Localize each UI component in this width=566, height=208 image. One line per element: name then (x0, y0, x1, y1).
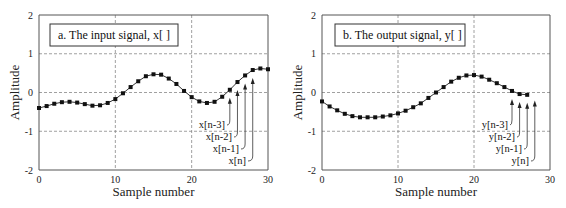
chart-title: b. The output signal, y[ ] (343, 28, 462, 42)
data-point (136, 79, 140, 83)
data-point (68, 100, 72, 104)
data-point (98, 103, 102, 107)
arrow-head (533, 101, 537, 107)
data-point (434, 91, 438, 95)
data-point (235, 80, 239, 84)
arrow-head (228, 98, 232, 104)
arrow-head (243, 83, 247, 89)
data-point (518, 92, 522, 96)
annotation-pointer (531, 106, 535, 162)
data-point (449, 80, 453, 84)
data-point (343, 112, 347, 116)
data-point (228, 88, 232, 92)
arrow-head (235, 90, 239, 96)
x-axis-label: Sample number (395, 184, 478, 199)
data-point (213, 100, 217, 104)
y-tick-label: 0 (311, 87, 316, 98)
data-point (220, 95, 224, 99)
arrow-head (510, 99, 514, 105)
data-point (106, 101, 110, 105)
figure: 210-1-20102030Sample numberAmplitudea. T… (0, 0, 566, 208)
y-tick-label: -1 (308, 126, 316, 137)
arrow-head (525, 103, 529, 109)
data-point (113, 97, 117, 101)
data-point (495, 81, 499, 85)
data-point (419, 101, 423, 105)
y-tick-label: -1 (25, 126, 33, 137)
annotation-label: x[n-2] (206, 131, 232, 142)
data-point (502, 85, 506, 89)
annotation-label: y[n] (512, 155, 530, 166)
y-tick-label: -2 (308, 165, 316, 176)
data-point (411, 105, 415, 109)
data-point (258, 66, 262, 70)
annotation-label: x[n-1] (213, 143, 239, 154)
data-point (525, 93, 529, 97)
chart-title: a. The input signal, x[ ] (58, 28, 170, 42)
data-point (510, 89, 514, 93)
annotation-pointer (524, 108, 527, 149)
y-tick-label: 1 (311, 48, 316, 59)
data-point (472, 73, 476, 77)
data-point (121, 91, 125, 95)
y-tick-label: -2 (25, 165, 33, 176)
data-point (404, 109, 408, 113)
data-point (83, 102, 87, 106)
chart-left: 210-1-20102030Sample numberAmplitudea. T… (7, 10, 273, 200)
data-point (358, 115, 362, 119)
x-axis-label: Sample number (113, 184, 196, 199)
data-point (144, 74, 148, 78)
data-point (335, 108, 339, 112)
data-point (52, 102, 56, 106)
data-point (426, 96, 430, 100)
annotation-label: y[n-1] (496, 143, 522, 154)
x-tick-label: 0 (37, 174, 42, 185)
chart-right: 210-1-20102030Sample numberAmplitudeb. T… (290, 10, 555, 200)
data-point (381, 115, 385, 119)
annotation-label: x[n] (229, 155, 247, 166)
data-point (480, 75, 484, 79)
data-point (388, 113, 392, 117)
data-point (487, 78, 491, 82)
data-point (159, 73, 163, 77)
y-axis-label: Amplitude (290, 64, 305, 120)
data-point (328, 104, 332, 108)
data-point (45, 104, 49, 108)
annotation-label: y[n-3] (482, 119, 508, 130)
data-point (60, 100, 64, 104)
data-point (129, 85, 133, 89)
data-point (205, 101, 209, 105)
arrow-head (518, 102, 522, 108)
data-point (442, 85, 446, 89)
data-point (197, 99, 201, 103)
annotation-pointer (517, 107, 520, 137)
y-axis-label: Amplitude (7, 64, 22, 120)
annotation-pointer (234, 95, 237, 137)
annotation-pointer (227, 103, 230, 125)
annotation-pointer (241, 88, 245, 149)
annotation-pointer (248, 83, 253, 161)
data-point (174, 82, 178, 86)
data-point (190, 95, 194, 99)
data-point (251, 68, 255, 72)
data-point (396, 111, 400, 115)
data-point (350, 114, 354, 118)
y-tick-label: 2 (28, 10, 33, 21)
data-point (366, 115, 370, 119)
data-point (90, 104, 94, 108)
x-tick-label: 30 (263, 174, 273, 185)
y-tick-label: 2 (311, 10, 316, 21)
arrow-head (251, 78, 255, 84)
data-point (182, 89, 186, 93)
data-point (457, 76, 461, 80)
data-point (373, 115, 377, 119)
x-tick-label: 30 (545, 174, 555, 185)
annotation-label: x[n-3] (199, 119, 225, 130)
annotation-label: y[n-2] (489, 131, 515, 142)
data-point (167, 77, 171, 81)
data-point (75, 101, 79, 105)
data-point (152, 72, 156, 76)
data-point (266, 67, 270, 71)
y-tick-label: 1 (28, 48, 33, 59)
data-point (37, 106, 41, 110)
